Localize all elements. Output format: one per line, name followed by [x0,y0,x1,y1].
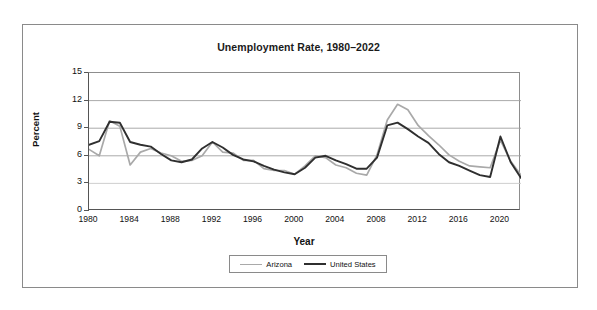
x-tick-label-2000: 2000 [274,214,314,224]
unemployment-rate-chart-figure: Unemployment Rate, 1980–2022 Percent 036… [0,0,597,310]
x-tick-label-2020: 2020 [479,214,519,224]
y-axis-title: Percent [30,90,41,170]
legend-swatch-icon-united-states [304,263,326,265]
y-tick-label-9: 9 [56,121,82,131]
legend-label: Arizona [266,260,292,269]
y-tick-label-3: 3 [56,176,82,186]
chart-legend: ArizonaUnited States [229,255,387,273]
x-tick-label-1992: 1992 [191,214,231,224]
y-tick-label-6: 6 [56,149,82,159]
legend-entry-united-states[interactable]: United States [304,260,376,269]
x-tick-label-2008: 2008 [356,214,396,224]
legend-entry-arizona[interactable]: Arizona [240,260,292,269]
chart-title: Unemployment Rate, 1980–2022 [0,41,597,53]
horizontal-gridlines [89,101,521,184]
x-tick-label-1980: 1980 [68,214,108,224]
x-tick-label-2016: 2016 [438,214,478,224]
x-axis-title: Year [88,236,520,247]
legend-label: United States [330,260,376,269]
plot-area [88,72,520,210]
series-lines-svg [89,73,521,211]
x-tick-label-2012: 2012 [397,214,437,224]
x-tick-label-1988: 1988 [150,214,190,224]
x-tick-label-1984: 1984 [109,214,149,224]
x-tick-label-2004: 2004 [315,214,355,224]
x-tick-label-1996: 1996 [233,214,273,224]
legend-swatch-icon-arizona [240,264,262,265]
y-tick-label-15: 15 [56,66,82,76]
data-series-group [89,104,521,178]
y-tick-label-0: 0 [56,204,82,214]
y-tick-label-12: 12 [56,94,82,104]
series-line-united-states [89,122,521,178]
